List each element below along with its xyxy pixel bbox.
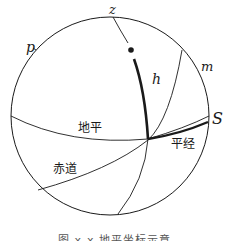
celestial-sphere-diagram <box>0 0 225 241</box>
label-meridian: m <box>201 60 213 73</box>
label-pole: p <box>26 40 35 54</box>
label-star: S <box>212 111 223 127</box>
label-equator: 赤道 <box>53 163 77 175</box>
label-zenith: z <box>109 3 116 16</box>
altitude-arc-h <box>134 59 148 139</box>
label-altitude: h <box>152 72 161 86</box>
label-horizon: 地平 <box>78 122 102 134</box>
celestial-sphere-outline <box>11 17 209 215</box>
label-azimuth: 平经 <box>171 138 195 150</box>
star-dot <box>128 47 134 53</box>
figure-caption: 图 x-x 地平坐标示意图 <box>58 231 178 241</box>
vertical-circle-upper <box>113 17 128 43</box>
